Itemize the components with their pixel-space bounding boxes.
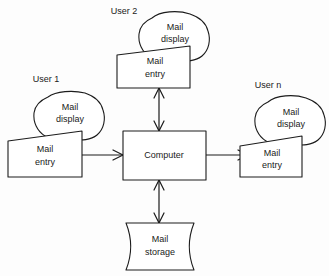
mail-storage-label-line1: Mail: [152, 234, 169, 244]
user2-mail-display-label-line2: display: [161, 34, 190, 44]
usern-mail-display-label-line1: Mail: [283, 107, 300, 117]
connector-computer-storage: [154, 180, 164, 223]
mail-storage-label-line2: storage: [145, 247, 175, 257]
user1-group: User 1 Mail display Mail entry: [8, 74, 104, 177]
storage-group: Mail storage: [126, 223, 194, 270]
computer-label: Computer: [144, 150, 184, 160]
user1-mail-display-label-line2: display: [56, 114, 85, 124]
user2-group: User 2 Mail display Mail entry: [111, 6, 210, 88]
user2-mail-display-label-line1: Mail: [167, 22, 184, 32]
connector-user1-to-computer: [82, 150, 123, 160]
usern-mail-entry-label-line2: entry: [262, 160, 283, 170]
user2-mail-entry-label-line1: Mail: [147, 56, 164, 66]
usern-mail-entry-label-line1: Mail: [264, 148, 281, 158]
user1-mail-display-label-line1: Mail: [62, 102, 79, 112]
user1-mail-entry-label-line1: Mail: [37, 144, 54, 154]
connector-computer-user2: [154, 88, 164, 131]
computer-group: Computer: [123, 131, 206, 180]
user2-caption: User 2: [111, 6, 138, 16]
user1-mail-entry-label-line2: entry: [35, 157, 56, 167]
usern-group: User n Mail display Mail entry: [240, 80, 325, 177]
user2-mail-entry-label-line2: entry: [145, 69, 166, 79]
usern-caption: User n: [255, 80, 282, 90]
usern-mail-display-label-line2: display: [277, 119, 306, 129]
user1-caption: User 1: [33, 74, 60, 84]
user2-mail-entry-shape: [117, 46, 190, 88]
mail-system-diagram: User 2 Mail display Mail entry User 1 Ma…: [0, 0, 329, 276]
